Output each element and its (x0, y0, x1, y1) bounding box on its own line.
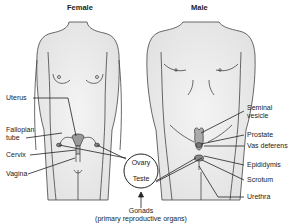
label-ovary: Ovary (128, 159, 154, 167)
label-scrotum: Scrotum (247, 176, 273, 184)
label-vas-deferens: Vas deferens (247, 142, 288, 150)
caption-gonads: Gonads (91, 207, 191, 215)
male-title: Male (191, 3, 208, 12)
label-vagina: Vagina (6, 170, 27, 178)
label-fallopian-tube-line1: Fallopian (6, 126, 34, 134)
label-seminal-vesicle-line1: Seminal (247, 104, 272, 112)
label-epididymis: Epididymis (247, 161, 281, 169)
caption-primary-reproductive-organs: (primary reproductive organs) (81, 215, 201, 223)
label-seminal-vesicle-line2: vesicle (247, 112, 268, 120)
label-teste: Teste (128, 175, 154, 183)
label-uterus: Uterus (6, 94, 27, 102)
label-fallopian-tube-line2: tube (6, 134, 20, 142)
label-urethra: Urethra (247, 193, 270, 201)
label-prostate: Prostate (247, 131, 273, 139)
label-cervix: Cervix (6, 151, 26, 159)
female-title: Female (67, 3, 93, 12)
